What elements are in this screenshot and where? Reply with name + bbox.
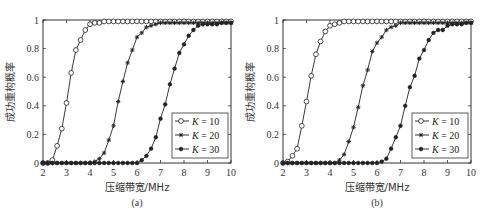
- dot-marker-icon: [323, 161, 327, 165]
- panel-caption: (a): [131, 197, 142, 209]
- circle-marker-icon: [295, 146, 300, 151]
- star-marker-icon: [347, 139, 351, 143]
- star-marker-icon: [412, 21, 416, 25]
- star-marker-icon: [403, 21, 407, 25]
- y-axis-label: 成功重构概率: [4, 62, 16, 122]
- dot-marker-icon: [314, 161, 318, 165]
- dot-marker-icon: [154, 135, 158, 139]
- circle-marker-icon: [106, 19, 111, 24]
- dot-marker-icon: [179, 147, 183, 151]
- dot-marker-icon: [356, 161, 360, 165]
- dot-marker-icon: [126, 161, 130, 165]
- circle-marker-icon: [379, 19, 384, 24]
- dot-marker-icon: [432, 31, 436, 35]
- y-axis-label: 成功重构概率: [244, 62, 256, 122]
- star-marker-icon: [177, 21, 181, 25]
- panel-caption: (b): [371, 197, 383, 209]
- star-marker-icon: [154, 22, 158, 26]
- x-tick-label: 3: [64, 167, 69, 178]
- dot-marker-icon: [380, 160, 384, 164]
- x-axis-label: 压缩带宽/MHz: [345, 181, 410, 193]
- dot-marker-icon: [140, 158, 144, 162]
- dot-marker-icon: [116, 161, 120, 165]
- circle-marker-icon: [389, 19, 394, 24]
- dot-marker-icon: [450, 22, 454, 26]
- circle-marker-icon: [323, 29, 328, 34]
- star-marker-icon: [149, 24, 153, 28]
- circle-marker-icon: [149, 19, 154, 24]
- dot-marker-icon: [201, 22, 205, 26]
- dot-marker-icon: [206, 22, 210, 26]
- circle-marker-icon: [135, 19, 140, 24]
- dot-marker-icon: [413, 74, 417, 78]
- legend-label: K = 30: [191, 144, 219, 155]
- dot-marker-icon: [192, 28, 196, 32]
- dot-marker-icon: [41, 161, 45, 165]
- star-marker-icon: [398, 21, 402, 25]
- dot-marker-icon: [305, 161, 309, 165]
- circle-marker-icon: [318, 39, 323, 44]
- circle-marker-icon: [419, 119, 424, 124]
- x-tick-label: 9: [205, 167, 210, 178]
- circle-marker-icon: [365, 19, 370, 24]
- star-marker-icon: [102, 151, 106, 155]
- circle-marker-icon: [299, 123, 304, 128]
- star-marker-icon: [97, 157, 101, 161]
- circle-marker-icon: [384, 19, 389, 24]
- dot-marker-icon: [51, 161, 55, 165]
- star-marker-icon: [342, 152, 346, 156]
- dot-marker-icon: [385, 157, 389, 161]
- dot-marker-icon: [149, 147, 153, 151]
- dot-marker-icon: [196, 24, 200, 28]
- circle-marker-icon: [309, 73, 314, 78]
- star-marker-icon: [365, 68, 369, 72]
- y-tick-label: 0.2: [27, 129, 40, 140]
- star-marker-icon: [179, 133, 183, 137]
- star-marker-icon: [389, 25, 393, 29]
- circle-marker-icon: [179, 119, 184, 124]
- dot-marker-icon: [436, 28, 440, 32]
- x-tick-label: 8: [422, 167, 427, 178]
- dot-marker-icon: [107, 161, 111, 165]
- dot-marker-icon: [399, 124, 403, 128]
- dot-marker-icon: [295, 161, 299, 165]
- x-tick-label: 2: [41, 167, 46, 178]
- star-marker-icon: [125, 61, 129, 65]
- dot-marker-icon: [177, 51, 181, 55]
- y-tick-label: 0.8: [27, 43, 40, 54]
- dot-marker-icon: [121, 161, 125, 165]
- star-marker-icon: [380, 35, 384, 39]
- dot-marker-icon: [446, 24, 450, 28]
- star-marker-icon: [116, 99, 120, 103]
- x-tick-label: 10: [226, 167, 236, 178]
- circle-marker-icon: [74, 48, 79, 53]
- dot-marker-icon: [163, 102, 167, 106]
- dot-marker-icon: [455, 22, 459, 26]
- star-marker-icon: [441, 21, 445, 25]
- dot-marker-icon: [88, 161, 92, 165]
- dot-marker-icon: [328, 161, 332, 165]
- circle-marker-icon: [144, 19, 149, 24]
- circle-marker-icon: [393, 19, 398, 24]
- star-marker-icon: [408, 21, 412, 25]
- dot-marker-icon: [135, 161, 139, 165]
- star-marker-icon: [158, 21, 162, 25]
- circle-marker-icon: [92, 20, 97, 25]
- circle-marker-icon: [290, 153, 295, 158]
- circle-marker-icon: [59, 126, 64, 131]
- star-marker-icon: [130, 48, 134, 52]
- star-marker-icon: [140, 31, 144, 35]
- dot-marker-icon: [130, 161, 134, 165]
- dot-marker-icon: [422, 48, 426, 52]
- star-marker-icon: [111, 124, 115, 128]
- dot-marker-icon: [427, 38, 431, 42]
- circle-marker-icon: [55, 143, 60, 148]
- dot-marker-icon: [187, 34, 191, 38]
- circle-marker-icon: [351, 19, 356, 24]
- dot-marker-icon: [102, 161, 106, 165]
- dot-marker-icon: [347, 161, 351, 165]
- dot-marker-icon: [93, 161, 97, 165]
- dot-marker-icon: [220, 21, 224, 25]
- dot-marker-icon: [159, 117, 163, 121]
- circle-marker-icon: [125, 19, 130, 24]
